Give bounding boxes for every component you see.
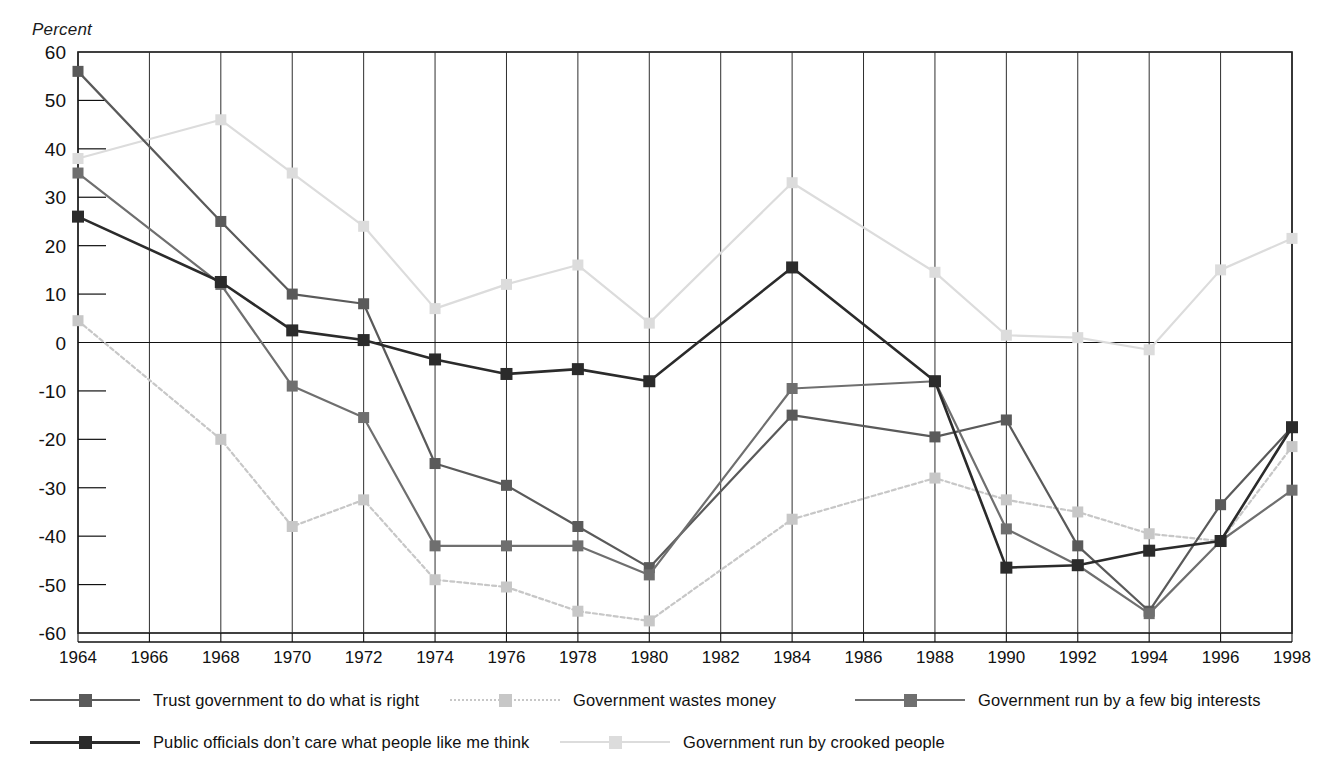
chart-legend: Trust government to do what is right Gov… <box>0 682 1335 774</box>
series-marker <box>572 606 583 617</box>
series-marker <box>929 431 940 442</box>
series-marker <box>1000 562 1012 574</box>
legend-row-2: Public officials don’t care what people … <box>0 724 1335 760</box>
series-marker <box>929 375 941 387</box>
legend-row-1: Trust government to do what is right Gov… <box>0 682 1335 718</box>
x-tick-label: 1986 <box>845 648 883 667</box>
series-marker <box>358 298 369 309</box>
series-marker <box>287 289 298 300</box>
series-marker <box>430 458 441 469</box>
legend-item-trust-government[interactable]: Trust government to do what is right <box>30 682 419 718</box>
series-marker <box>1287 485 1298 496</box>
series-marker <box>1072 506 1083 517</box>
series-marker <box>501 480 512 491</box>
series-marker <box>572 260 583 271</box>
x-tick-label: 1984 <box>773 648 811 667</box>
series-marker <box>501 540 512 551</box>
series-marker <box>787 177 798 188</box>
series-marker <box>1001 414 1012 425</box>
series-marker <box>1286 421 1298 433</box>
legend-key-icon-1 <box>450 691 560 709</box>
series-marker <box>287 521 298 532</box>
legend-item-few-big-interests[interactable]: Government run by a few big interests <box>855 682 1261 718</box>
series-marker <box>1144 608 1155 619</box>
series-marker <box>286 324 298 336</box>
series-marker <box>1001 523 1012 534</box>
series-marker <box>287 381 298 392</box>
series-marker <box>572 363 584 375</box>
series-marker <box>73 153 84 164</box>
series-marker <box>501 582 512 593</box>
series-line <box>78 217 1292 568</box>
series-marker <box>1215 499 1226 510</box>
y-tick-label: -50 <box>39 575 66 596</box>
series-marker <box>1072 332 1083 343</box>
legend-key-icon-3 <box>30 733 140 751</box>
series-marker <box>73 66 84 77</box>
series-marker <box>358 494 369 505</box>
x-tick-label: 1996 <box>1202 648 1240 667</box>
series-marker <box>572 540 583 551</box>
y-tick-label: 40 <box>45 139 66 160</box>
series-marker <box>215 276 227 288</box>
x-tick-label: 1966 <box>130 648 168 667</box>
series-marker <box>1287 233 1298 244</box>
x-tick-label: 1974 <box>416 648 454 667</box>
series-marker <box>358 334 370 346</box>
y-tick-label: -20 <box>39 429 66 450</box>
x-tick-label: 1992 <box>1059 648 1097 667</box>
series-marker <box>1215 264 1226 275</box>
x-tick-label: 1998 <box>1273 648 1311 667</box>
series-marker <box>929 473 940 484</box>
series-marker <box>1215 535 1227 547</box>
y-tick-label: 0 <box>55 333 66 354</box>
series-marker <box>644 615 655 626</box>
legend-item-government-wastes-money[interactable]: Government wastes money <box>450 682 776 718</box>
series-marker <box>73 168 84 179</box>
x-tick-label: 1968 <box>202 648 240 667</box>
series-marker <box>358 221 369 232</box>
series-marker <box>429 353 441 365</box>
y-tick-label: 10 <box>45 284 66 305</box>
series-marker <box>787 383 798 394</box>
series-marker <box>358 412 369 423</box>
series-marker <box>215 216 226 227</box>
y-tick-label: -30 <box>39 478 66 499</box>
series-marker <box>929 267 940 278</box>
legend-key-icon-2 <box>855 691 965 709</box>
y-tick-label: -10 <box>39 381 66 402</box>
x-tick-label: 1972 <box>345 648 383 667</box>
y-tick-label: 20 <box>45 236 66 257</box>
legend-key-icon-4 <box>560 733 670 751</box>
chart-page: Percent 6050403020100-10-20-30-40-50-601… <box>0 0 1335 774</box>
series-marker <box>287 168 298 179</box>
series-marker <box>1144 528 1155 539</box>
plot-area: 6050403020100-10-20-30-40-50-60196419661… <box>0 0 1335 690</box>
series-marker <box>1001 494 1012 505</box>
x-tick-label: 1982 <box>702 648 740 667</box>
series-marker <box>430 303 441 314</box>
series-marker <box>430 574 441 585</box>
x-tick-label: 1978 <box>559 648 597 667</box>
x-tick-label: 1970 <box>273 648 311 667</box>
series-marker <box>1144 344 1155 355</box>
y-tick-label: 30 <box>45 187 66 208</box>
series-marker <box>1001 330 1012 341</box>
legend-label-3: Public officials don’t care what people … <box>140 733 529 752</box>
x-tick-label: 1976 <box>488 648 526 667</box>
series-marker <box>430 540 441 551</box>
series-marker <box>572 521 583 532</box>
x-tick-label: 1990 <box>987 648 1025 667</box>
series-marker <box>1072 540 1083 551</box>
legend-item-public-officials-dont-care[interactable]: Public officials don’t care what people … <box>30 724 529 760</box>
series-marker <box>1143 545 1155 557</box>
series-marker <box>215 434 226 445</box>
y-tick-label: 60 <box>45 42 66 63</box>
x-tick-label: 1988 <box>916 648 954 667</box>
legend-label-0: Trust government to do what is right <box>140 691 419 710</box>
legend-item-crooked-people[interactable]: Government run by crooked people <box>560 724 945 760</box>
series-marker <box>787 410 798 421</box>
series-marker <box>644 569 655 580</box>
series-marker <box>787 514 798 525</box>
series-line <box>78 120 1292 350</box>
